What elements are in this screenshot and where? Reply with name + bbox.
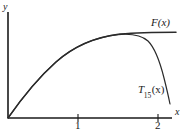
curve-label-t15-subscript: 15 — [144, 91, 152, 100]
curve-label-t15: T15(x) — [138, 84, 164, 98]
x-tick-label-2: 2 — [155, 120, 161, 131]
curve-label-f: F(x) — [151, 17, 170, 28]
x-tick-label-1: 1 — [75, 120, 81, 131]
curve-label-t15-suffix: (x) — [152, 83, 165, 95]
math-plot-figure: y x 1 2 F(x) T15(x) — [0, 0, 186, 134]
x-axis-label: x — [175, 107, 179, 117]
y-axis-label: y — [3, 2, 7, 12]
curve-t15 — [8, 34, 170, 118]
